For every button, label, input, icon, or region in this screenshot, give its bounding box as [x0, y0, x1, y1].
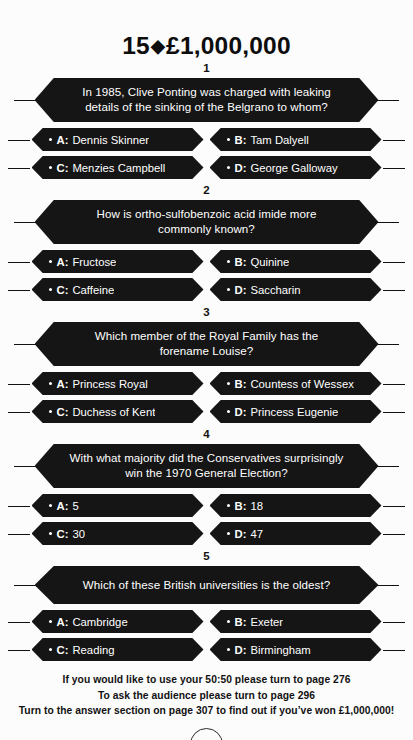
- bullet-dot-icon: [49, 410, 52, 413]
- question-row: Which member of the Royal Family has the…: [0, 322, 413, 366]
- question-row: With what majority did the Conservatives…: [0, 444, 413, 488]
- bullet-dot-icon: [49, 288, 52, 291]
- answer-option-b[interactable]: B:Exeter: [210, 610, 382, 633]
- answer-text: Princess Eugenie: [250, 406, 338, 418]
- page-number-wrap: 246: [0, 728, 413, 740]
- bullet-dot-icon: [227, 166, 230, 169]
- question-number: 2: [0, 184, 413, 197]
- answer-option-d[interactable]: D:Saccharin: [210, 278, 382, 301]
- diamond-icon: ◆: [150, 35, 166, 57]
- answer-letter: D:: [235, 284, 247, 296]
- page-footer: If you would like to use your 50:50 plea…: [0, 672, 413, 740]
- answer-letter: A:: [57, 616, 69, 628]
- answer-letter: A:: [57, 134, 69, 146]
- answer-option-d[interactable]: D:George Galloway: [210, 156, 382, 179]
- question-number: 3: [0, 306, 413, 319]
- answer-letter: C:: [57, 528, 69, 540]
- answer-text: Menzies Campbell: [72, 162, 165, 174]
- page-header: 15◆£1,000,000: [0, 0, 413, 60]
- answer-text: Birmingham: [250, 644, 310, 656]
- answer-row: C:30D:47: [0, 522, 413, 545]
- questions-list: 1In 1985, Clive Ponting was charged with…: [0, 62, 413, 661]
- answer-text: Fructose: [72, 256, 116, 268]
- answer-row: C:Menzies CampbellD:George Galloway: [0, 156, 413, 179]
- question-text: How is ortho-sulfobenzoic acid imide mor…: [69, 207, 345, 236]
- answer-letter: D:: [235, 528, 247, 540]
- answer-letter: B:: [235, 500, 247, 512]
- answer-option-c[interactable]: C:Menzies Campbell: [32, 156, 204, 179]
- answer-option-b[interactable]: B:Countess of Wessex: [210, 372, 382, 395]
- question-number: 5: [0, 550, 413, 563]
- answer-letter: A:: [57, 378, 69, 390]
- page-number: 246: [190, 728, 223, 740]
- answer-letter: D:: [235, 644, 247, 656]
- answer-row: C:Duchess of KentD:Princess Eugenie: [0, 400, 413, 423]
- question-number: 4: [0, 428, 413, 441]
- question-row: In 1985, Clive Ponting was charged with …: [0, 78, 413, 122]
- question-hexagon: How is ortho-sulfobenzoic acid imide mor…: [35, 200, 379, 244]
- question-text: With what majority did the Conservatives…: [69, 451, 345, 480]
- answer-option-a[interactable]: A:Cambridge: [32, 610, 204, 633]
- answer-text: Dennis Skinner: [72, 134, 149, 146]
- answer-letter: B:: [235, 134, 247, 146]
- answer-option-d[interactable]: D:Princess Eugenie: [210, 400, 382, 423]
- question-block: 3Which member of the Royal Family has th…: [0, 306, 413, 423]
- prize-title: 15◆£1,000,000: [0, 32, 413, 60]
- bullet-dot-icon: [49, 648, 52, 651]
- answer-option-d[interactable]: D:Birmingham: [210, 638, 382, 661]
- bullet-dot-icon: [227, 260, 230, 263]
- answer-letter: C:: [57, 162, 69, 174]
- answer-text: Exeter: [250, 616, 283, 628]
- bullet-dot-icon: [49, 620, 52, 623]
- answer-options: A:FructoseB:QuinineC:CaffeineD:Saccharin: [0, 250, 413, 301]
- bullet-dot-icon: [49, 504, 52, 507]
- bullet-dot-icon: [227, 504, 230, 507]
- answer-row: A:Princess RoyalB:Countess of Wessex: [0, 372, 413, 395]
- bullet-dot-icon: [49, 138, 52, 141]
- bullet-dot-icon: [49, 382, 52, 385]
- answer-letter: C:: [57, 284, 69, 296]
- answer-letter: A:: [57, 256, 69, 268]
- answer-letter: C:: [57, 644, 69, 656]
- answer-text: Saccharin: [250, 284, 300, 296]
- answer-option-a[interactable]: A:5: [32, 494, 204, 517]
- bullet-dot-icon: [227, 382, 230, 385]
- answer-text: Tam Dalyell: [250, 134, 308, 146]
- bullet-dot-icon: [227, 532, 230, 535]
- answer-option-a[interactable]: A:Fructose: [32, 250, 204, 273]
- answer-options: A:Dennis SkinnerB:Tam DalyellC:Menzies C…: [0, 128, 413, 179]
- bullet-dot-icon: [227, 288, 230, 291]
- question-text: In 1985, Clive Ponting was charged with …: [69, 85, 345, 114]
- answer-text: 30: [72, 528, 85, 540]
- bullet-dot-icon: [49, 532, 52, 535]
- answer-letter: C:: [57, 406, 69, 418]
- answer-option-c[interactable]: C:Reading: [32, 638, 204, 661]
- question-hexagon: Which member of the Royal Family has the…: [35, 322, 379, 366]
- question-row: How is ortho-sulfobenzoic acid imide mor…: [0, 200, 413, 244]
- header-question-number: 15: [122, 32, 150, 59]
- answer-option-b[interactable]: B:Quinine: [210, 250, 382, 273]
- answer-letter: B:: [235, 378, 247, 390]
- answer-option-c[interactable]: C:Caffeine: [32, 278, 204, 301]
- answer-option-b[interactable]: B:Tam Dalyell: [210, 128, 382, 151]
- answer-option-b[interactable]: B:18: [210, 494, 382, 517]
- answer-option-d[interactable]: D:47: [210, 522, 382, 545]
- question-block: 1In 1985, Clive Ponting was charged with…: [0, 62, 413, 179]
- answer-row: A:Dennis SkinnerB:Tam Dalyell: [0, 128, 413, 151]
- question-hexagon: Which of these British universities is t…: [35, 566, 379, 604]
- answer-text: George Galloway: [250, 162, 337, 174]
- question-block: 2How is ortho-sulfobenzoic acid imide mo…: [0, 184, 413, 301]
- question-block: 5Which of these British universities is …: [0, 550, 413, 661]
- answer-option-a[interactable]: A:Princess Royal: [32, 372, 204, 395]
- answer-row: C:CaffeineD:Saccharin: [0, 278, 413, 301]
- answer-option-c[interactable]: C:30: [32, 522, 204, 545]
- answer-text: Reading: [72, 644, 114, 656]
- answer-options: A:CambridgeB:ExeterC:ReadingD:Birmingham: [0, 610, 413, 661]
- answer-letter: B:: [235, 616, 247, 628]
- answer-text: Countess of Wessex: [250, 378, 353, 390]
- answer-option-a[interactable]: A:Dennis Skinner: [32, 128, 204, 151]
- answer-text: Duchess of Kent: [72, 406, 155, 418]
- answer-option-c[interactable]: C:Duchess of Kent: [32, 400, 204, 423]
- question-text: Which of these British universities is t…: [83, 578, 330, 593]
- answer-row: A:5B:18: [0, 494, 413, 517]
